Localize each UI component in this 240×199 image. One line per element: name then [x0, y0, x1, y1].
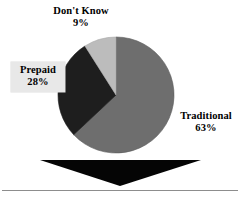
horizontal-rule: [2, 190, 238, 191]
slice-label-traditional-percent: 63%: [172, 122, 240, 134]
slice-label-dont-know-percent: 9%: [26, 17, 136, 29]
slice-label-dont-know: Don't Know 9%: [26, 5, 136, 30]
slice-label-traditional: Traditional 63%: [172, 110, 240, 135]
down-arrow-icon: [40, 160, 201, 186]
slice-label-traditional-name: Traditional: [172, 110, 240, 122]
pie-chart-graphic: [0, 0, 240, 199]
slice-label-prepaid-percent: 28%: [12, 76, 64, 88]
slice-label-dont-know-name: Don't Know: [26, 5, 136, 17]
slice-label-prepaid: Prepaid 28%: [11, 62, 65, 92]
pie-chart-figure: Don't Know 9% Prepaid 28% Traditional 63…: [0, 0, 240, 199]
slice-label-prepaid-name: Prepaid: [12, 64, 64, 76]
